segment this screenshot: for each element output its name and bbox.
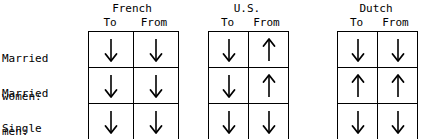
arrow-up-icon <box>258 73 280 99</box>
arrow-down-icon <box>218 73 240 99</box>
cell-us-married-women-from <box>249 32 289 68</box>
group-title-dutch: Dutch <box>337 2 415 15</box>
cell-dutch-married-men-from <box>378 68 418 104</box>
arrow-down-icon <box>145 73 167 99</box>
arrow-down-icon <box>387 37 409 63</box>
table-row <box>338 68 418 104</box>
arrow-down-icon <box>387 109 409 135</box>
cell-french-single-women-from <box>134 104 179 140</box>
cell-dutch-single-women-from <box>378 104 418 140</box>
table-row <box>89 104 179 140</box>
arrow-down-icon <box>218 37 240 63</box>
row-label-column: Married women: Married men: Single women… <box>2 28 86 133</box>
table-row <box>338 104 418 140</box>
group-title-us: U.S. <box>208 2 286 15</box>
arrow-down-icon <box>145 109 167 135</box>
arrow-down-icon <box>145 37 167 63</box>
cell-dutch-married-women-to <box>338 32 378 68</box>
column-headers-dutch: To From <box>337 16 415 29</box>
arrow-down-icon <box>347 37 369 63</box>
matrix-dutch <box>337 31 418 139</box>
arrow-down-icon <box>100 37 122 63</box>
table-row <box>209 104 289 140</box>
matrix-french <box>88 31 179 139</box>
cell-french-single-women-to <box>89 104 134 140</box>
cell-dutch-married-men-to <box>338 68 378 104</box>
cell-french-married-women-from <box>134 32 179 68</box>
cell-us-married-men-from <box>249 68 289 104</box>
arrow-down-icon <box>258 109 280 135</box>
cell-us-married-men-to <box>209 68 249 104</box>
matrix-us <box>208 31 289 139</box>
cell-french-married-men-from <box>134 68 179 104</box>
column-header-to: To <box>337 16 376 29</box>
row-label-married-men: Married men: <box>2 63 86 98</box>
arrow-down-icon <box>100 109 122 135</box>
cell-dutch-married-women-from <box>378 32 418 68</box>
table-row <box>338 32 418 68</box>
cell-us-married-women-to <box>209 32 249 68</box>
arrow-down-icon <box>100 73 122 99</box>
arrow-up-icon <box>258 37 280 63</box>
table-row <box>89 32 179 68</box>
row-label-line-1: Single <box>2 123 86 136</box>
column-headers-us: To From <box>208 16 286 29</box>
arrow-down-icon <box>218 109 240 135</box>
column-header-from: From <box>247 16 286 29</box>
row-label-married-women: Married women: <box>2 28 86 63</box>
arrow-down-icon <box>347 109 369 135</box>
arrow-up-icon <box>347 73 369 99</box>
cell-us-single-women-from <box>249 104 289 140</box>
column-header-to: To <box>88 16 132 29</box>
cell-dutch-single-women-to <box>338 104 378 140</box>
arrow-up-icon <box>387 73 409 99</box>
column-header-from: From <box>132 16 176 29</box>
table-row <box>209 32 289 68</box>
cell-french-married-women-to <box>89 32 134 68</box>
column-header-from: From <box>376 16 415 29</box>
table-row <box>209 68 289 104</box>
column-headers-french: To From <box>88 16 176 29</box>
column-header-to: To <box>208 16 247 29</box>
table-row <box>89 68 179 104</box>
cell-french-married-men-to <box>89 68 134 104</box>
cell-us-single-women-to <box>209 104 249 140</box>
group-title-french: French <box>88 2 176 15</box>
row-label-single-women: Single women: <box>2 98 86 133</box>
direction-matrix-figure: Married women: Married men: Single women… <box>0 0 422 139</box>
